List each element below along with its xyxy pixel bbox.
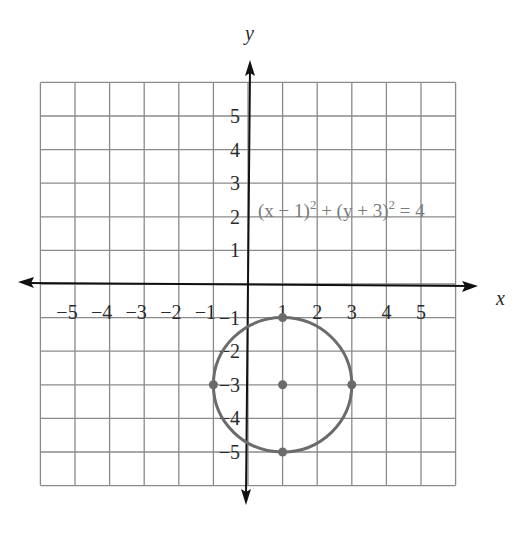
y-tick-label: 3 bbox=[230, 172, 240, 194]
x-tick-label: −2 bbox=[160, 301, 181, 323]
y-tick-label: −3 bbox=[219, 374, 240, 396]
y-tick-label: 2 bbox=[230, 206, 240, 228]
y-tick-label: 4 bbox=[230, 139, 240, 161]
equation-part-3: = 4 bbox=[395, 200, 425, 221]
circle-point bbox=[278, 448, 287, 457]
equation-part-1: (x − 1) bbox=[258, 200, 310, 222]
x-tick-label: −1 bbox=[195, 301, 216, 323]
x-tick-label: −5 bbox=[56, 301, 77, 323]
x-tick-label: 4 bbox=[381, 301, 391, 323]
x-tick-labels: −5−4−3−2−112345 bbox=[56, 301, 426, 323]
x-tick-label: −4 bbox=[91, 301, 112, 323]
circle-point bbox=[209, 380, 218, 389]
y-tick-label: 5 bbox=[230, 105, 240, 127]
x-axis-label: x bbox=[495, 287, 505, 309]
equation-part-2: + (y + 3) bbox=[316, 200, 388, 222]
x-tick-label: 2 bbox=[312, 301, 322, 323]
circle-graph: x y −5−4−3−2−112345 54321−1−2−3−4−5 (x −… bbox=[0, 0, 528, 546]
x-tick-label: −3 bbox=[126, 301, 147, 323]
y-tick-label: −1 bbox=[219, 307, 240, 329]
x-tick-label: 5 bbox=[416, 301, 426, 323]
circle-point bbox=[278, 313, 287, 322]
y-axis-label: y bbox=[243, 22, 254, 45]
center-point bbox=[278, 380, 287, 389]
x-tick-label: 3 bbox=[347, 301, 357, 323]
circle-point bbox=[347, 380, 356, 389]
y-tick-label: 1 bbox=[230, 239, 240, 261]
equation-label: (x − 1)2 + (y + 3)2 = 4 bbox=[258, 197, 425, 222]
y-tick-label: −5 bbox=[219, 441, 240, 463]
